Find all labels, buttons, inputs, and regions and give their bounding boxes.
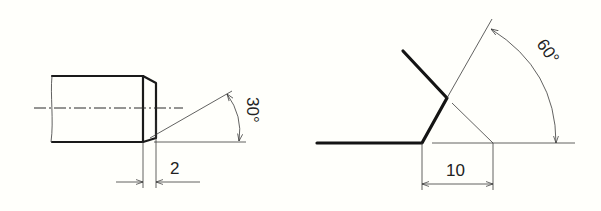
chamfer-angle-label: 30° bbox=[243, 97, 262, 123]
groove-angle-label: 60° bbox=[533, 35, 563, 67]
angle-slope-line bbox=[447, 19, 492, 98]
construction-line bbox=[452, 103, 493, 143]
shaft-figure: 2 30° bbox=[34, 76, 262, 188]
chamfer-length-label: 2 bbox=[170, 159, 179, 178]
shaft-outline bbox=[52, 76, 156, 142]
angle-arc bbox=[227, 94, 240, 141]
drawing-canvas: 2 30° 10 60° bbox=[0, 0, 601, 211]
break-line bbox=[51, 76, 52, 142]
groove-profile bbox=[317, 51, 447, 143]
groove-figure: 10 60° bbox=[317, 19, 575, 190]
angle-slope-line bbox=[150, 91, 232, 138]
groove-width-label: 10 bbox=[446, 161, 465, 180]
